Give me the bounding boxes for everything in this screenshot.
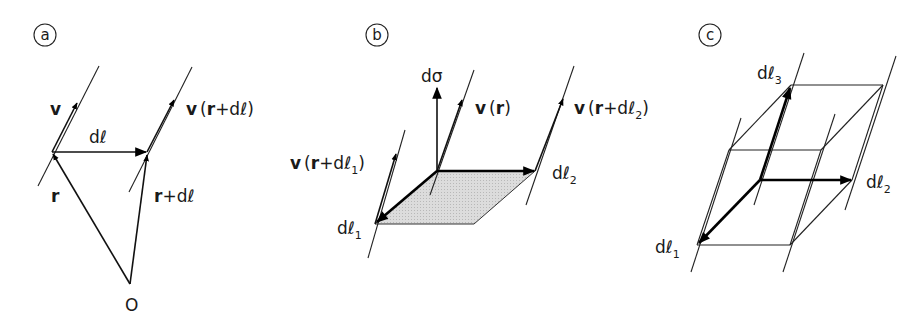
label-r-plus-dl: r+dℓ (154, 186, 194, 206)
label-dsigma: dσ (421, 66, 443, 86)
label-v-of-r-plus-dl1: v(r+dℓ1) (290, 153, 365, 177)
panel-c-tag: c (699, 24, 721, 46)
field-line-at-r-plus-dl (129, 67, 192, 192)
surface-element-shaded (375, 171, 535, 224)
field-line-at-r-plus-dl1 (368, 130, 405, 258)
label-v-of-r-plus-dl2: v(r+dℓ2) (574, 98, 649, 122)
panel-c: c dℓ3 dℓ2 dℓ1 (655, 24, 896, 272)
velocity-arrow-at-r (437, 100, 462, 171)
parallelepiped-edges (691, 53, 896, 272)
panel-a: a v dℓ r r+dℓ v(r+dℓ) O (34, 24, 254, 315)
vector-field-figure: a v dℓ r r+dℓ v(r+dℓ) O b (0, 0, 922, 327)
field-line-at-r-plus-dl2 (526, 66, 574, 205)
label-dl2: dℓ2 (552, 163, 577, 187)
label-dl1: dℓ1 (655, 237, 680, 261)
panel-a-tag: a (34, 24, 56, 46)
field-line-at-r (38, 66, 99, 186)
panel-b-tag: b (366, 24, 388, 46)
panel-c-tag-text: c (706, 26, 714, 44)
label-r: r (51, 186, 60, 206)
label-dl1: dℓ1 (337, 218, 362, 242)
label-v: v (50, 99, 61, 119)
label-origin: O (125, 295, 138, 315)
panel-b-tag-text: b (372, 26, 382, 44)
label-v-of-r-plus-dl: v(r+dℓ) (186, 99, 254, 119)
velocity-arrow-at-r-plus-dl (147, 100, 174, 152)
velocity-arrow-at-r-plus-dl2 (535, 99, 563, 171)
panel-b: b dσ v(r) v(r+dℓ1) v(r+dℓ2) dℓ1 dℓ2 (290, 24, 649, 258)
label-dl3: dℓ3 (757, 63, 782, 87)
label-v-of-r: v(r) (475, 98, 511, 118)
label-dl2: dℓ2 (866, 172, 891, 196)
position-vector-r (53, 154, 130, 284)
panel-a-tag-text: a (40, 26, 49, 44)
label-dl: dℓ (89, 127, 107, 147)
